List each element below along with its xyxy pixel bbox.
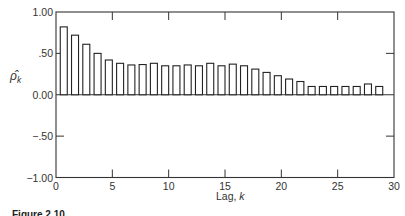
acf-bar bbox=[94, 53, 101, 94]
acf-bar bbox=[274, 76, 281, 95]
acf-bar bbox=[72, 35, 79, 95]
acf-bar bbox=[150, 63, 157, 94]
y-tick-labels: 1.00.500.00−.50−1.00 bbox=[26, 6, 53, 184]
acf-bar bbox=[139, 65, 146, 95]
acf-bar bbox=[128, 65, 135, 95]
figure-caption: Figure 2.10 bbox=[12, 209, 65, 216]
acf-bar bbox=[263, 72, 270, 94]
y-tick-label: 1.00 bbox=[33, 6, 54, 18]
acf-bar bbox=[353, 86, 360, 94]
acf-bar bbox=[342, 86, 349, 94]
acf-bar bbox=[297, 82, 304, 95]
bar-series bbox=[60, 27, 382, 95]
acf-bar bbox=[105, 60, 112, 95]
acf-bar bbox=[173, 66, 180, 95]
acf-bar bbox=[195, 66, 202, 95]
acf-bar bbox=[241, 66, 248, 95]
acf-bar bbox=[218, 66, 225, 95]
acf-bar bbox=[319, 86, 326, 94]
acf-bar bbox=[364, 84, 371, 95]
y-axis-title: ρ̂k bbox=[9, 69, 22, 85]
acf-bar bbox=[207, 63, 214, 94]
acf-bar bbox=[184, 65, 191, 95]
x-tick-label: 20 bbox=[275, 180, 287, 192]
acf-bar bbox=[252, 69, 259, 95]
acf-bar bbox=[60, 27, 67, 95]
acf-bar-chart: 1.00.500.00−.50−1.00 051015202530 ρ̂k La… bbox=[0, 0, 405, 216]
acf-bar bbox=[229, 64, 236, 95]
acf-bar bbox=[83, 44, 90, 94]
y-tick-label: −.50 bbox=[32, 130, 53, 142]
x-tick-label: 5 bbox=[109, 180, 115, 192]
x-tick-label: 25 bbox=[332, 180, 344, 192]
y-tick-label: 0.00 bbox=[33, 89, 54, 101]
x-tick-label: 10 bbox=[163, 180, 175, 192]
acf-bar bbox=[286, 79, 293, 95]
acf-bar bbox=[376, 86, 383, 94]
acf-bar bbox=[308, 86, 315, 94]
x-tick-label: 30 bbox=[388, 180, 400, 192]
x-tick-label: 0 bbox=[53, 180, 59, 192]
y-tick-label: −1.00 bbox=[26, 172, 53, 184]
acf-bar bbox=[331, 86, 338, 94]
y-tick-label: .50 bbox=[38, 47, 53, 59]
acf-bar bbox=[117, 63, 124, 94]
x-axis-title: Lag, k bbox=[216, 190, 245, 202]
acf-bar bbox=[162, 66, 169, 95]
